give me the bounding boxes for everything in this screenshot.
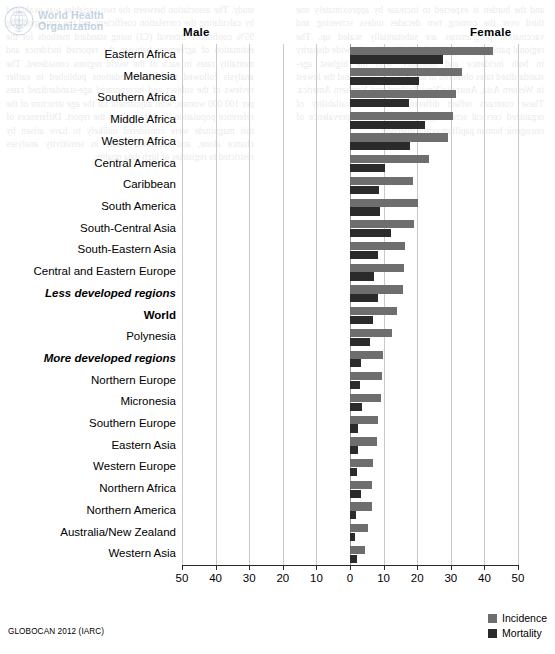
chart-row: World xyxy=(182,305,518,327)
who-wordmark: World Health Organization xyxy=(38,10,104,33)
x-tick-mark xyxy=(350,565,351,570)
y-axis-label: Central and Eastern Europe xyxy=(33,264,176,278)
bar-mortality xyxy=(350,251,378,259)
bar-mortality xyxy=(350,99,409,107)
y-axis-label: Less developed regions xyxy=(45,286,176,300)
x-tick-label: 40 xyxy=(209,572,222,584)
bar-incidence xyxy=(350,242,405,250)
bar-mortality xyxy=(350,121,425,129)
chart-row: Micronesia xyxy=(182,391,518,413)
bar-mortality xyxy=(350,207,380,215)
y-axis-label: Western Asia xyxy=(108,546,176,560)
y-axis-label: Northern Europe xyxy=(91,373,176,387)
y-axis-label: Eastern Africa xyxy=(104,47,176,61)
who-wordmark-line2: Organization xyxy=(38,21,104,33)
bar-incidence xyxy=(350,372,382,380)
y-axis-label: Polynesia xyxy=(126,329,176,343)
chart-row: Eastern Asia xyxy=(182,435,518,457)
bar-incidence xyxy=(350,307,397,315)
x-tick-label: 20 xyxy=(411,572,424,584)
bar-incidence xyxy=(350,524,368,532)
bar-mortality xyxy=(350,55,443,63)
y-axis-label: Australia/New Zealand xyxy=(60,525,176,539)
chart-row: Eastern Africa xyxy=(182,44,518,66)
bar-mortality xyxy=(350,468,357,476)
y-axis-label: More developed regions xyxy=(44,351,176,365)
chart-row: South-Central Asia xyxy=(182,218,518,240)
who-logo: World Health Organization xyxy=(4,4,132,38)
y-axis-label: Southern Africa xyxy=(97,90,176,104)
bar-mortality xyxy=(350,490,361,498)
chart-row: Western Asia xyxy=(182,543,518,565)
chart-row: South-Eastern Asia xyxy=(182,239,518,261)
bar-incidence xyxy=(350,264,404,272)
x-tick-mark xyxy=(249,565,250,570)
x-tick-mark xyxy=(484,565,485,570)
chart-row: Southern Europe xyxy=(182,413,518,435)
chart-row: Middle Africa xyxy=(182,109,518,131)
bar-rows: Eastern AfricaMelanesiaSouthern AfricaMi… xyxy=(182,44,518,565)
chart-row: Polynesia xyxy=(182,326,518,348)
legend-label-mortality: Mortality xyxy=(502,627,542,639)
x-tick-label: 50 xyxy=(176,572,189,584)
x-tick-label: 20 xyxy=(276,572,289,584)
x-tick-mark xyxy=(216,565,217,570)
bar-mortality xyxy=(350,381,360,389)
legend-swatch-mortality xyxy=(488,629,497,638)
bar-mortality xyxy=(350,533,355,541)
bar-incidence xyxy=(350,177,413,185)
y-axis-label: South America xyxy=(101,199,176,213)
bar-incidence xyxy=(350,47,493,55)
bar-mortality xyxy=(350,359,361,367)
bar-mortality xyxy=(350,164,385,172)
y-axis-label: Caribbean xyxy=(123,177,176,191)
bar-mortality xyxy=(350,424,358,432)
bar-mortality xyxy=(350,77,419,85)
bar-mortality xyxy=(350,446,358,454)
x-tick-mark xyxy=(316,565,317,570)
legend-label-incidence: Incidence xyxy=(502,612,547,624)
x-tick-label: 10 xyxy=(377,572,390,584)
x-tick-mark xyxy=(283,565,284,570)
source-note: GLOBOCAN 2012 (IARC) xyxy=(8,627,104,636)
chart-row: Western Africa xyxy=(182,131,518,153)
bar-incidence xyxy=(350,351,383,359)
bar-mortality xyxy=(350,511,356,519)
x-tick-mark xyxy=(417,565,418,570)
legend-item-incidence: Incidence xyxy=(488,612,547,624)
bar-mortality xyxy=(350,186,379,194)
y-axis-label: Northern Africa xyxy=(99,481,176,495)
x-tick-mark xyxy=(451,565,452,570)
bar-incidence xyxy=(350,416,378,424)
bar-incidence xyxy=(350,481,372,489)
x-tick-label: 40 xyxy=(478,572,491,584)
x-tick-label: 10 xyxy=(310,572,323,584)
bar-mortality xyxy=(350,294,378,302)
x-tick-label: 50 xyxy=(512,572,525,584)
bar-incidence xyxy=(350,133,448,141)
bar-incidence xyxy=(350,437,377,445)
bar-mortality xyxy=(350,403,362,411)
legend-item-mortality: Mortality xyxy=(488,627,547,639)
chart-row: Central and Eastern Europe xyxy=(182,261,518,283)
y-axis-label: Melanesia xyxy=(124,69,176,83)
legend-swatch-incidence xyxy=(488,614,497,623)
chart-row: South America xyxy=(182,196,518,218)
chart-row: Less developed regions xyxy=(182,283,518,305)
x-tick-label: 30 xyxy=(243,572,256,584)
bar-incidence xyxy=(350,199,418,207)
bar-incidence xyxy=(350,329,392,337)
y-axis-label: South-Central Asia xyxy=(80,221,176,235)
y-axis-label: Western Europe xyxy=(93,459,176,473)
bar-incidence xyxy=(350,546,365,554)
chart-row: More developed regions xyxy=(182,348,518,370)
plot-area: Eastern AfricaMelanesiaSouthern AfricaMi… xyxy=(182,44,518,565)
x-tick-mark xyxy=(384,565,385,570)
y-axis-label: Middle Africa xyxy=(110,112,176,126)
y-axis-label: Eastern Asia xyxy=(111,438,176,452)
bar-incidence xyxy=(350,459,373,467)
chart-row: Northern Europe xyxy=(182,370,518,392)
bar-mortality xyxy=(350,229,391,237)
bar-incidence xyxy=(350,285,403,293)
y-axis-label: Central America xyxy=(94,156,176,170)
